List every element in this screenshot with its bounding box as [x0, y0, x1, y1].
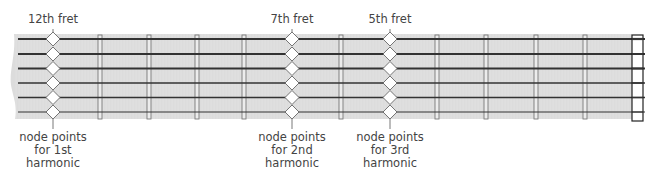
label-line: harmonic: [356, 157, 424, 170]
label-line: harmonic: [19, 157, 87, 170]
label-12th-fret: 12th fret: [28, 13, 78, 26]
label-line: harmonic: [258, 157, 326, 170]
fret-wire: [242, 35, 246, 119]
label-7th-fret: 7th fret: [271, 13, 314, 26]
fret-wire: [98, 35, 102, 119]
fretboard-wood: [11, 34, 632, 119]
fret-wire: [435, 35, 439, 119]
nut: [632, 35, 643, 121]
label-5th-fret: 5th fret: [369, 13, 412, 26]
label-3rd-harmonic-nodes: node points for 3rd harmonic: [356, 131, 424, 170]
fret-wire: [339, 35, 343, 119]
label-2nd-harmonic-nodes: node points for 2nd harmonic: [258, 131, 326, 170]
fret-wire: [534, 35, 538, 119]
fret-wire: [484, 35, 488, 119]
fret-wire: [195, 35, 199, 119]
label-1st-harmonic-nodes: node points for 1st harmonic: [19, 131, 87, 170]
fretboard-diagram: 12th fret 7th fret 5th fret node points …: [0, 0, 651, 178]
fret-wire: [147, 35, 151, 119]
fret-wire: [583, 35, 587, 119]
